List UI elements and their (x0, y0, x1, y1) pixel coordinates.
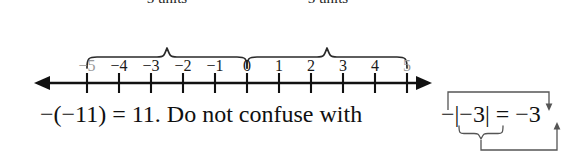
absolute-value-to-result-connector-path (481, 129, 557, 150)
tick-label-4: 4 (362, 58, 388, 74)
equation-segment-note: Do not confuse with (161, 101, 362, 127)
annotated-expression: −|−3| = −3 (441, 99, 541, 129)
math-figure: 5 units 5 units −5 −4 −3 −2 −1 0 1 2 3 4… (0, 0, 587, 160)
result-negative-sign: − (515, 101, 529, 127)
number-line-diagram: 5 units 5 units −5 −4 −3 −2 −1 0 1 2 3 4… (0, 0, 587, 88)
tick-label-1: 1 (266, 58, 292, 74)
left-brace-label: 5 units (124, 0, 210, 6)
right-brace-label: 5 units (285, 0, 371, 6)
tick-label--1: −1 (202, 58, 228, 74)
axis-right-arrowhead (416, 76, 432, 90)
equation-sentence: −(−11) = 11. Do not confuse with (40, 99, 362, 129)
axis-left-arrowhead (34, 76, 50, 90)
tick-label--3: −3 (138, 58, 164, 74)
outer-negative-sign: − (441, 101, 455, 127)
equation-segment-lhs: −(−11) (40, 101, 106, 127)
inner-negative-three: −3 (459, 101, 485, 127)
tick-label-5: 5 (394, 58, 420, 74)
tick-label--2: −2 (170, 58, 196, 74)
absolute-value-to-result-arrowhead (554, 122, 561, 130)
tick-label--5: −5 (74, 58, 100, 74)
equation-segment-rhs: 11. (132, 101, 161, 127)
equation-segment-equals: = (106, 101, 132, 127)
outer-negative-to-result-arrowhead (546, 104, 553, 112)
tick-label-0: 0 (234, 58, 260, 74)
number-line-graphics (0, 0, 587, 160)
axis-ticks (87, 73, 407, 93)
tick-label-2: 2 (298, 58, 324, 74)
tick-label-3: 3 (330, 58, 356, 74)
tick-label--4: −4 (106, 58, 132, 74)
result-three: 3 (529, 101, 541, 127)
equals-sign: = (490, 101, 516, 127)
